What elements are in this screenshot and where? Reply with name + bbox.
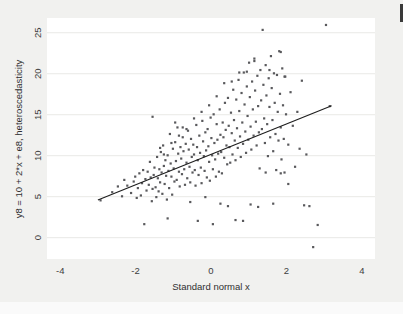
data-point — [263, 117, 265, 119]
data-point — [231, 153, 233, 155]
data-point — [271, 87, 273, 89]
data-point — [179, 185, 181, 187]
data-point — [189, 201, 191, 203]
y-tick-label: 20 — [32, 68, 43, 79]
data-point — [156, 156, 158, 158]
data-point — [283, 171, 285, 173]
data-point — [253, 57, 255, 59]
data-point — [224, 102, 226, 104]
data-point — [194, 185, 196, 187]
x-tick-label: 0 — [208, 265, 213, 276]
data-point — [272, 203, 274, 205]
data-point — [148, 184, 150, 186]
data-point — [219, 203, 221, 205]
data-point — [137, 187, 139, 189]
data-point — [157, 177, 159, 179]
data-point — [230, 112, 232, 114]
data-point — [218, 171, 220, 173]
data-point — [172, 148, 174, 150]
data-point — [166, 198, 168, 200]
data-point — [280, 158, 282, 160]
data-point — [151, 188, 153, 190]
data-point — [164, 159, 166, 161]
x-tick-label: 4 — [359, 265, 364, 276]
data-point — [212, 223, 214, 225]
data-point — [289, 91, 291, 93]
data-point — [248, 62, 250, 64]
data-point — [246, 71, 248, 73]
data-point — [265, 94, 267, 96]
data-point — [236, 127, 238, 129]
data-point — [181, 173, 183, 175]
data-point — [257, 206, 259, 208]
data-point — [258, 131, 260, 133]
data-point — [197, 174, 199, 176]
data-point — [167, 154, 169, 156]
data-point — [269, 136, 271, 138]
data-point — [246, 85, 248, 87]
data-point — [325, 24, 327, 26]
y-tick-label: 5 — [32, 194, 43, 199]
data-point — [222, 136, 224, 138]
y-tick-label: 25 — [32, 27, 43, 38]
data-point — [282, 104, 284, 106]
data-point — [151, 200, 153, 202]
data-point — [294, 166, 296, 168]
data-point — [159, 181, 161, 183]
data-point — [191, 171, 193, 173]
data-point — [130, 192, 132, 194]
data-point — [161, 193, 163, 195]
data-point — [159, 147, 161, 149]
data-point — [260, 99, 262, 101]
data-point — [201, 120, 203, 122]
data-point — [268, 106, 270, 108]
data-point — [239, 135, 241, 137]
data-point — [213, 142, 215, 144]
data-point — [195, 124, 197, 126]
data-point — [227, 205, 229, 207]
data-point — [178, 135, 180, 137]
data-point — [183, 168, 185, 170]
data-point — [207, 145, 209, 147]
data-point — [173, 180, 175, 182]
data-point — [216, 139, 218, 141]
data-point — [215, 176, 217, 178]
data-point — [212, 168, 214, 170]
data-point — [158, 190, 160, 192]
data-point — [140, 194, 142, 196]
data-point — [259, 69, 261, 71]
data-point — [272, 150, 274, 152]
data-point — [162, 144, 164, 146]
data-point — [197, 220, 199, 222]
data-point — [111, 191, 113, 193]
data-point — [149, 161, 151, 163]
data-point — [216, 123, 218, 125]
x-tick-label: -2 — [131, 265, 139, 276]
data-point — [213, 113, 215, 115]
data-point — [229, 162, 231, 164]
data-point — [158, 168, 160, 170]
data-point — [180, 157, 182, 159]
data-point — [222, 121, 224, 123]
data-point — [280, 51, 282, 53]
data-point — [163, 165, 165, 167]
data-point — [153, 167, 155, 169]
data-point — [203, 170, 205, 172]
data-point — [238, 71, 240, 73]
data-point — [202, 140, 204, 142]
data-point — [210, 137, 212, 139]
data-point — [262, 29, 264, 31]
data-point — [223, 82, 225, 84]
data-point — [144, 178, 146, 180]
data-point — [191, 156, 193, 158]
data-point — [210, 117, 212, 119]
data-point — [285, 113, 287, 115]
data-point — [170, 176, 172, 178]
data-point — [232, 89, 234, 91]
data-point — [251, 80, 253, 82]
data-point — [256, 144, 258, 146]
data-point — [155, 196, 157, 198]
data-point — [177, 153, 179, 155]
data-point — [193, 117, 195, 119]
data-point — [134, 176, 136, 178]
